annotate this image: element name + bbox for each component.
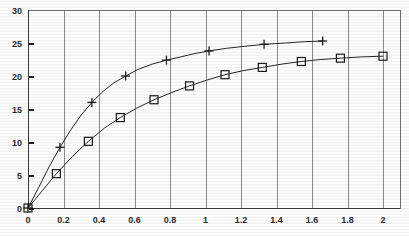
line-chart: 051015202530 00.20.40.60.811.21.41.61.82 (0, 0, 409, 236)
chart-container: 051015202530 00.20.40.60.811.21.41.61.82 (0, 0, 409, 236)
x-tick-label-0.4: 0.4 (93, 215, 106, 225)
x-tick-label-1.2: 1.2 (235, 215, 248, 225)
y-tick-label-20: 20 (12, 72, 22, 82)
y-tick-label-10: 10 (12, 138, 22, 148)
y-tick-label-5: 5 (17, 171, 22, 181)
x-tick-label-1.4: 1.4 (270, 215, 283, 225)
y-tick-label-25: 25 (12, 39, 22, 49)
y-tick-label-0: 0 (17, 204, 22, 214)
y-tick-label-15: 15 (12, 105, 22, 115)
x-tick-label-1.6: 1.6 (306, 215, 319, 225)
x-tick-label-2: 2 (380, 215, 385, 225)
y-tick-label-30: 30 (12, 6, 22, 16)
x-tick-label-0: 0 (25, 215, 30, 225)
x-tick-label-0.8: 0.8 (164, 215, 177, 225)
x-tick-label-0.6: 0.6 (128, 215, 141, 225)
x-tick-label-1.8: 1.8 (341, 215, 354, 225)
x-tick-label-1: 1 (203, 215, 208, 225)
x-tick-label-0.2: 0.2 (57, 215, 70, 225)
